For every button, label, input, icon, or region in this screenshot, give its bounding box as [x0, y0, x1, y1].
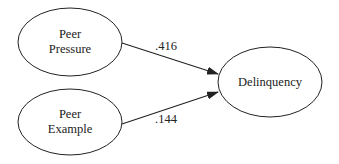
- node-label: Delinquency: [238, 75, 303, 89]
- node-peer-pressure: Peer Pressure: [18, 8, 122, 76]
- node-label-line-1: Peer: [59, 27, 82, 41]
- node-label-line-2: Pressure: [49, 42, 92, 56]
- edge-coefficient-label: .416: [155, 39, 177, 53]
- path-diagram: .416 .144 Peer Pressure Peer Example Del…: [0, 0, 339, 164]
- node-label-line-1: Peer: [59, 107, 82, 121]
- edge-coefficient-label: .144: [155, 112, 178, 126]
- node-delinquency: Delinquency: [218, 47, 322, 117]
- node-label-line-2: Example: [48, 122, 93, 136]
- edge-peer-example-to-delinquency: .144: [122, 92, 218, 126]
- node-peer-example: Peer Example: [18, 89, 122, 155]
- edge-peer-pressure-to-delinquency: .416: [122, 39, 218, 74]
